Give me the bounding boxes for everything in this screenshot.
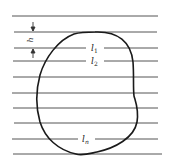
arrowhead-down-icon [31,27,35,31]
chord-label-l2: l2 [91,56,98,67]
chord-label-l1: l1 [91,43,98,54]
parallel-lines [12,16,162,154]
chord-label-ln: ln [82,134,89,145]
region-diagram: h l1 l2 ln [0,0,172,163]
spacing-label-h: h [26,37,35,42]
arrowhead-up-icon [31,49,35,53]
